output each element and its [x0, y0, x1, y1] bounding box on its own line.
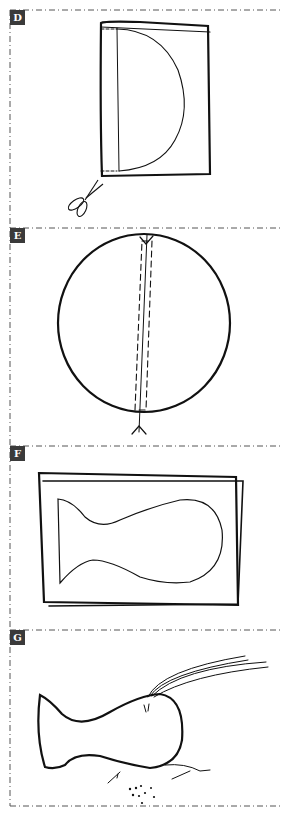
- panel-f: F: [10, 446, 282, 630]
- illustration-g-stuffed-fish: [10, 630, 282, 806]
- scissors-icon: [66, 180, 103, 218]
- panel-e: E: [10, 228, 282, 446]
- panel-d: D: [10, 10, 282, 228]
- panel-g: G: [10, 630, 282, 806]
- illustration-f-fish-on-fabric: [10, 446, 282, 630]
- illustration-d-fold-half-circle: [10, 10, 282, 228]
- illustration-e-circle-slit: [10, 228, 282, 446]
- stuffing-dots: [129, 785, 155, 804]
